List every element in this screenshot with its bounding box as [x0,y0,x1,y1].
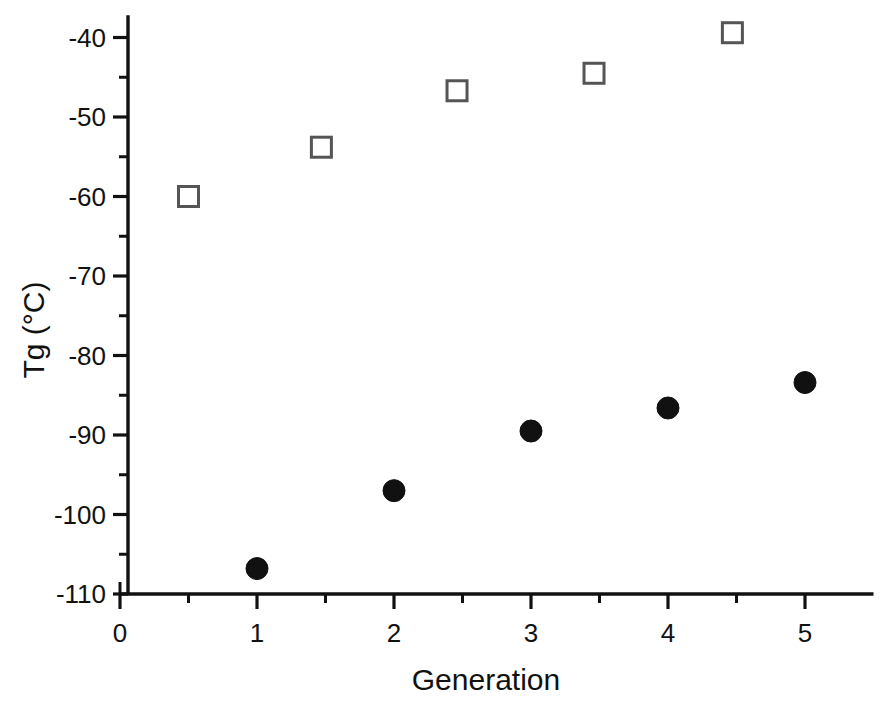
x-tick-label: 0 [113,618,127,648]
data-point-filled-circle [246,558,268,580]
data-point-open-square [311,137,331,157]
data-point-filled-circle [520,420,542,442]
data-point-filled-circle [794,372,816,394]
x-tick-label: 3 [524,618,538,648]
y-tick-label: -40 [68,23,106,53]
x-tick-label: 2 [387,618,401,648]
data-point-open-square [584,63,604,83]
data-point-filled-circle [383,480,405,502]
y-tick-label: -80 [68,341,106,371]
x-tick-label: 5 [798,618,812,648]
x-tick-label: 1 [250,618,264,648]
data-point-open-square [447,81,467,101]
x-axis: 012345 [113,582,874,648]
data-point-open-square [722,23,742,43]
y-axis: -40-50-60-70-80-90-100-110 [54,15,128,609]
x-axis-title: Generation [412,663,560,696]
y-tick-label: -50 [68,102,106,132]
y-tick-label: -90 [68,420,106,450]
data-point-filled-circle [657,397,679,419]
y-tick-label: -110 [56,579,106,609]
data-point-open-square [179,187,199,207]
figure-scatter-plot: 312 CHAPTER HEADING -40-50-60-70-80-90-1… [0,0,892,705]
y-tick-label: -60 [68,182,106,212]
x-tick-label: 4 [661,618,675,648]
data-series-group [179,23,817,580]
y-tick-label: -70 [68,261,106,291]
y-axis-title: Tg (°C) [17,282,50,379]
y-tick-label: -100 [54,500,106,530]
plot-canvas: -40-50-60-70-80-90-100-110 012345 Tg (°C… [0,0,892,705]
plot-area: -40-50-60-70-80-90-100-110 012345 Tg (°C… [0,0,892,705]
